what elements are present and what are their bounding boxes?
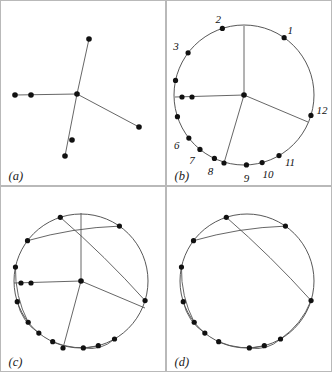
ring-node xyxy=(243,162,248,167)
ring-node xyxy=(281,35,286,40)
ring-node xyxy=(180,299,185,304)
ring-node xyxy=(185,50,190,55)
tree-edge xyxy=(77,94,139,127)
ring-node xyxy=(261,343,266,348)
panel-d: (d) xyxy=(166,186,332,372)
ring-node xyxy=(57,214,62,219)
panel-d-label: (d) xyxy=(175,356,190,369)
ring-node xyxy=(308,112,313,117)
graph-node xyxy=(60,345,65,350)
ring-node xyxy=(308,297,313,302)
ring-node xyxy=(24,238,29,243)
panel-a: (a) xyxy=(0,0,166,186)
ring-node xyxy=(25,319,30,324)
graph-node xyxy=(179,94,184,99)
chord-edge xyxy=(218,341,264,347)
chord-edge xyxy=(226,217,311,300)
ring-node xyxy=(216,339,221,344)
graph-node xyxy=(74,91,80,97)
graph-node xyxy=(86,36,92,42)
ring-node xyxy=(178,264,183,269)
ring-node xyxy=(277,336,282,341)
vertex-label: 11 xyxy=(284,156,294,168)
hub-node xyxy=(78,278,84,284)
spoke-edge xyxy=(224,95,244,163)
panel-a-plot xyxy=(1,1,167,187)
four-panel-figure: (a) 123456789101112 (b) (c) (d) xyxy=(0,0,332,372)
ring-node xyxy=(259,160,264,165)
ring-node xyxy=(36,330,41,335)
graph-node xyxy=(12,92,18,98)
panel-c-label: (c) xyxy=(9,356,23,369)
panel-b-label: (b) xyxy=(175,170,190,183)
panel-b: 123456789101112 (b) xyxy=(166,0,332,186)
graph-node xyxy=(221,160,226,165)
graph-node xyxy=(18,280,23,285)
ring-node xyxy=(80,345,85,350)
spoke-edge xyxy=(81,281,145,308)
ring-node xyxy=(186,135,191,140)
ring-node xyxy=(276,153,281,158)
ring-node xyxy=(191,319,196,324)
panel-d-plot xyxy=(167,187,332,372)
vertex-label: 2 xyxy=(215,12,221,24)
vertex-label: 8 xyxy=(207,164,213,176)
spoke-edge xyxy=(14,281,81,283)
chord-edge xyxy=(27,226,119,241)
ring-node xyxy=(50,339,55,344)
tree-edge xyxy=(15,94,77,95)
spoke-edge xyxy=(63,281,81,348)
tree-edge xyxy=(77,39,89,94)
graph-node xyxy=(189,94,194,99)
vertex-label: 6 xyxy=(174,138,180,150)
ring-node xyxy=(219,25,224,30)
ring-node xyxy=(246,345,251,350)
ring-node xyxy=(211,155,216,160)
ring-node xyxy=(202,330,207,335)
chord-edge xyxy=(52,341,98,347)
ring-node xyxy=(116,223,121,228)
graph-node xyxy=(62,153,68,159)
ring-node xyxy=(223,214,228,219)
ring-node xyxy=(197,146,202,151)
ring-node xyxy=(12,264,17,269)
chord-edge xyxy=(17,301,39,332)
spoke-edge xyxy=(175,95,244,97)
tree-edge xyxy=(65,94,77,156)
vertex-label: 12 xyxy=(316,103,328,115)
ring-node xyxy=(282,223,287,228)
vertex-label: 10 xyxy=(262,168,274,180)
chord-edge xyxy=(183,301,205,332)
graph-node xyxy=(136,124,142,130)
ring-node xyxy=(142,297,147,302)
graph-node xyxy=(28,92,34,98)
chord-edge xyxy=(193,226,285,241)
panel-a-label: (a) xyxy=(9,170,24,183)
panel-grid: (a) 123456789101112 (b) (c) (d) xyxy=(0,0,332,372)
chord-edge xyxy=(60,217,145,300)
ring-node xyxy=(111,336,116,341)
ring-node xyxy=(190,238,195,243)
vertex-label: 1 xyxy=(287,24,293,36)
panel-b-plot: 123456789101112 xyxy=(167,1,332,187)
hub-node xyxy=(241,92,247,98)
graph-node xyxy=(69,137,75,143)
panel-c-plot xyxy=(1,187,167,372)
graph-node xyxy=(28,280,33,285)
chord-edge xyxy=(280,300,311,338)
panel-c: (c) xyxy=(0,186,166,372)
ring-node xyxy=(95,343,100,348)
ring-node xyxy=(14,299,19,304)
vertex-label: 3 xyxy=(172,40,179,52)
ring-node xyxy=(174,114,179,119)
spoke-edge xyxy=(244,95,308,122)
vertex-label: 9 xyxy=(243,172,249,184)
ring-node xyxy=(172,77,177,82)
vertex-label: 7 xyxy=(189,153,195,165)
